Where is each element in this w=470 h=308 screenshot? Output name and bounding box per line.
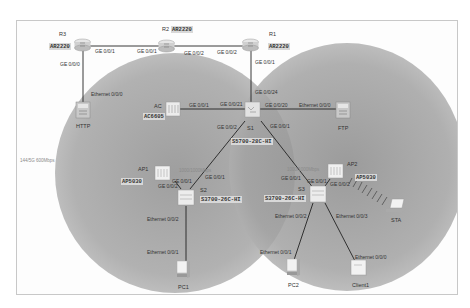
link-s3-client1 (325, 203, 355, 261)
pc2-label: PC2 (288, 282, 299, 289)
s1-model: S5700-28C-HI (231, 138, 273, 145)
port-r3-ge000: GE 0/0/0 (60, 61, 80, 67)
port-s1-ge0024: GE 0/0/24 (255, 89, 278, 95)
wireless-signal (349, 178, 387, 205)
port-pc1-eth: Ethernet 0/0/1 (147, 249, 178, 255)
ac-label: AC (154, 103, 162, 110)
s1-label: S1 (247, 125, 254, 132)
port-ftp-eth: Ethernet 0/0/0 (299, 102, 330, 108)
r1-model: AR2220 (268, 43, 290, 50)
port-s3-ge002: GE 0/0/2 (330, 181, 350, 187)
http-label: HTTP (76, 123, 90, 130)
ac-controller-icon[interactable] (165, 101, 181, 117)
http-server-icon[interactable] (75, 101, 91, 119)
ftp-label: FTP (338, 125, 348, 132)
port-ac-ge001: GE 0/0/1 (189, 102, 209, 108)
ftp-server-icon[interactable] (335, 101, 351, 119)
router-r2-icon[interactable] (158, 39, 175, 53)
router-r3-icon[interactable] (74, 38, 91, 52)
router-r1-icon[interactable] (242, 38, 259, 52)
ap2-icon[interactable] (327, 163, 344, 179)
ac-model: AC6605 (143, 113, 165, 120)
s3-label: S3 (298, 186, 305, 193)
s2-model: S3700-26C-HI (200, 196, 242, 203)
switch-s2-icon[interactable] (177, 189, 195, 206)
pc1-icon[interactable] (175, 259, 191, 279)
r3-model: AR2220 (49, 43, 71, 50)
ap1-icon[interactable] (154, 165, 171, 181)
port-r3-ge001: GE 0/0/1 (95, 48, 115, 54)
sta-laptop-icon[interactable] (385, 197, 407, 213)
port-r2-ge002: GE 0/0/2 (184, 50, 204, 56)
port-ap2-ge001: GE 0/0/1 (307, 178, 327, 184)
port-s2-ge002: GE 0/0/2 (158, 183, 178, 189)
port-r1-ge001: GE 0/0/1 (255, 59, 275, 65)
port-client1-eth: Ethernet 0/0/0 (355, 254, 386, 260)
r2-model: AR2220 (171, 26, 193, 33)
topology-canvas: R3 AR2220 R2 AR2220 R1 AR2220 GE 0/0/1 G… (16, 20, 458, 295)
pc1-label: PC1 (178, 284, 189, 291)
s2-label: S2 (200, 187, 207, 194)
sta-label: STA (391, 217, 401, 224)
port-s2-eth002: Ethernet 0/0/2 (147, 216, 178, 222)
links-layer (17, 21, 457, 294)
ap2-model: AP5030 (355, 174, 377, 181)
port-s1-ge0021: GE 0/0/21 (220, 101, 243, 107)
r2-label: R2 (162, 26, 169, 33)
switch-s3-icon[interactable] (309, 185, 327, 203)
pc2-icon[interactable] (285, 257, 301, 277)
client1-icon[interactable] (350, 259, 368, 277)
s3-model: S3700-26C-HI (264, 195, 306, 202)
ap2-link-rate: 1000/1000Mbps (287, 167, 319, 172)
port-s3-eth002: Ethernet 0/0/2 (275, 213, 306, 219)
wlan-rate-label: 144/5G 600Mbps (20, 158, 55, 163)
ap1-model: AP5030 (121, 178, 143, 185)
client1-label: Client1 (352, 282, 369, 289)
port-s1-ge001: GE 0/0/1 (270, 123, 290, 129)
r1-label: R1 (269, 31, 276, 38)
ap2-label: AP2 (347, 161, 357, 168)
port-r1-ge002: GE 0/0/2 (217, 49, 237, 55)
port-s3-eth003: Ethernet 0/0/3 (336, 213, 367, 219)
port-s3-ge001: GE 0/0/1 (281, 175, 301, 181)
port-r2-ge001: GE 0/0/1 (137, 48, 157, 54)
port-s1-ge002: GE 0/0/2 (217, 124, 237, 130)
r3-label: R3 (59, 31, 66, 38)
ap1-link-rate: 1000/1000Mbps (179, 168, 211, 173)
port-s1-ge0020: GE 0/0/20 (265, 102, 288, 108)
port-s2-ge001: GE 0/0/1 (205, 174, 225, 180)
port-pc2-eth: Ethernet 0/0/1 (260, 249, 291, 255)
ap1-label: AP1 (138, 166, 148, 173)
port-http-eth: Ethernet 0/0/0 (91, 91, 122, 97)
switch-s1-icon[interactable] (244, 101, 261, 118)
